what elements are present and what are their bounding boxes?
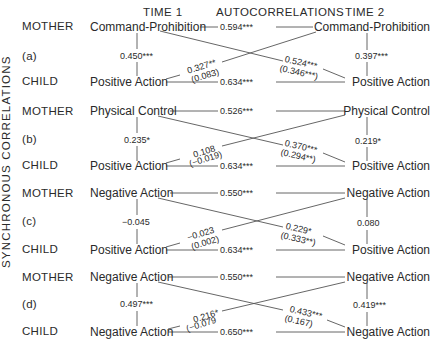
row-label-mother: MOTHER xyxy=(22,105,74,117)
mother-var-time2: Physical Control xyxy=(343,104,430,118)
child-var-time1: Negative Action xyxy=(90,325,173,339)
mother-var-time2: Negative Action xyxy=(347,186,430,200)
mother-var-time1: Physical Control xyxy=(90,104,177,118)
mother-var-time1: Negative Action xyxy=(90,186,173,200)
row-label-mother: MOTHER xyxy=(22,271,74,283)
auto-coef-child: 0.634*** xyxy=(220,77,253,87)
auto-coef-mother: 0.594*** xyxy=(220,22,253,32)
panel-id: (c) xyxy=(22,215,36,227)
mother-var-time1: Negative Action xyxy=(90,270,173,284)
child-var-time2: Positive Action xyxy=(352,159,430,173)
mother-var-time2: Negative Action xyxy=(347,270,430,284)
panel-id: (d) xyxy=(22,298,37,310)
side-label-synchronous-correlations: SYNCHRONOUS CORRELATIONS xyxy=(0,55,12,268)
row-label-child: CHILD xyxy=(22,243,58,255)
child-var-time2: Positive Action xyxy=(352,243,430,257)
panel-id: (b) xyxy=(22,133,37,145)
row-label-mother: MOTHER xyxy=(22,20,74,32)
auto-coef-mother: 0.526*** xyxy=(220,106,253,116)
sync-coef-time2: 0.219* xyxy=(355,136,381,146)
child-var-time1: Positive Action xyxy=(90,243,168,257)
child-var-time1: Positive Action xyxy=(90,159,168,173)
header-time1: TIME 1 xyxy=(143,6,182,18)
row-label-mother: MOTHER xyxy=(22,187,74,199)
mother-var-time1: Command-Prohibition xyxy=(90,20,206,34)
sync-coef-time1: 0.497*** xyxy=(120,299,153,309)
row-label-child: CHILD xyxy=(22,75,58,87)
sync-coef-time1: 0.235* xyxy=(124,135,150,145)
sync-coef-time2: 0.397*** xyxy=(355,51,388,61)
auto-coef-child: 0.634*** xyxy=(220,245,253,255)
header-time2: TIME 2 xyxy=(345,6,384,18)
sync-coef-time1: 0.450*** xyxy=(120,51,153,61)
sync-coef-time2: 0.419*** xyxy=(353,300,386,310)
panel-id: (a) xyxy=(22,50,37,62)
sync-coef-time2: 0.080 xyxy=(357,218,380,228)
auto-coef-child: 0.650*** xyxy=(220,327,253,337)
header-autocorrelations: AUTOCORRELATIONS xyxy=(216,6,344,18)
row-label-child: CHILD xyxy=(22,325,58,337)
auto-coef-mother: 0.550*** xyxy=(220,188,253,198)
row-label-child: CHILD xyxy=(22,159,58,171)
child-var-time1: Positive Action xyxy=(90,75,168,89)
auto-coef-mother: 0.550*** xyxy=(220,272,253,282)
child-var-time2: Negative Action xyxy=(347,325,430,339)
auto-coef-child: 0.634*** xyxy=(220,161,253,171)
mother-var-time2: Command-Prohibition xyxy=(314,20,430,34)
sync-coef-time1: −0.045 xyxy=(122,217,150,227)
child-var-time2: Positive Action xyxy=(352,75,430,89)
